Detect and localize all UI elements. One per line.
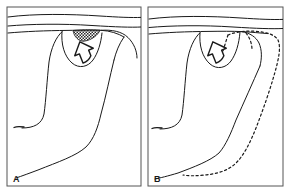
panel-b-label: B	[154, 174, 161, 184]
figure-container: A	[0, 0, 290, 192]
panel-b: B	[148, 7, 283, 186]
panel-a-label: A	[13, 174, 20, 184]
figure-canvas: A	[0, 0, 290, 192]
panel-b-frame	[148, 7, 283, 186]
panel-a: A	[7, 7, 141, 186]
